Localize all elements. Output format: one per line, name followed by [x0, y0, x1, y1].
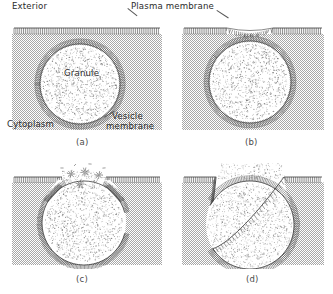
panel-d-drawing [178, 163, 328, 269]
label-plasma-membrane: Plasma membrane [131, 2, 214, 12]
panel-a-label: (a) [76, 137, 88, 147]
panel-b-label: (b) [245, 137, 258, 147]
exocytosis-figure: (a) (b) (c) (d) Exterior Plasma membrane… [0, 0, 333, 294]
panel-c [8, 163, 166, 269]
label-exterior: Exterior [12, 2, 47, 12]
label-vesicle-membrane-line2: membrane [106, 122, 154, 131]
panel-b-drawing [178, 16, 328, 134]
panel-c-drawing [8, 163, 166, 269]
label-granule: Granule [64, 69, 99, 79]
label-cytoplasm: Cytoplasm [7, 120, 54, 130]
label-vesicle-membrane-line1: Vesicle [112, 112, 143, 121]
panel-c-label: (c) [76, 274, 88, 284]
panel-d [178, 163, 328, 269]
panel-d-label: (d) [246, 274, 259, 284]
panel-b [178, 16, 328, 134]
